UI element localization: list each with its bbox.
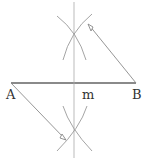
top-arc-right bbox=[63, 14, 92, 60]
bottom-arc-right bbox=[57, 106, 87, 151]
arrow-head-top-icon bbox=[88, 24, 93, 31]
perpendicular-bisector-diagram: A B m bbox=[0, 0, 153, 161]
label-point-b: B bbox=[132, 87, 142, 102]
bottom-arc-left bbox=[63, 106, 92, 151]
label-point-a: A bbox=[5, 87, 16, 102]
label-midpoint: m bbox=[82, 87, 94, 102]
compass-radius-a bbox=[11, 83, 65, 139]
compass-radius-b bbox=[89, 25, 136, 83]
